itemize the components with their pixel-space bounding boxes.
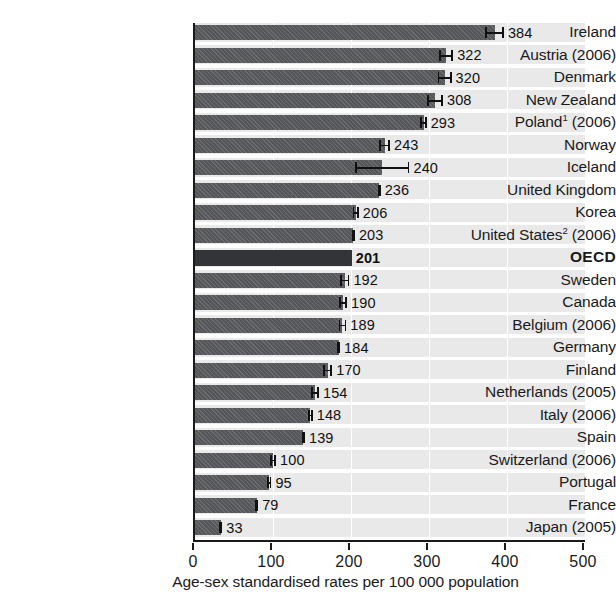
error-bar-cap-high	[330, 365, 332, 376]
bar	[195, 408, 310, 423]
error-bar-cap-low	[420, 117, 422, 128]
category-label-finland: Finland	[430, 362, 616, 378]
x-tick-label-100: 100	[257, 553, 284, 571]
category-label-korea: Korea	[430, 204, 616, 220]
bar	[195, 205, 356, 220]
error-bar-cap-low	[353, 207, 355, 218]
error-bar-cap-high	[348, 275, 350, 286]
value-label: 243	[394, 138, 419, 153]
x-tick-label-400: 400	[491, 553, 518, 571]
value-label: 293	[431, 116, 456, 131]
error-bar-cap-low	[267, 477, 269, 488]
x-axis-title-text: Age-sex standardised rates per 100 000 p…	[97, 573, 519, 590]
error-bar-line	[355, 167, 410, 169]
error-bar	[267, 475, 272, 490]
error-bar	[340, 273, 349, 288]
value-label: 192	[353, 273, 378, 288]
value-label: 236	[385, 183, 410, 198]
category-label-norway: Norway	[430, 137, 616, 153]
value-label: 95	[275, 476, 291, 491]
error-bar	[339, 318, 347, 333]
x-tick-200	[348, 543, 350, 550]
error-bar-cap-low	[379, 140, 381, 151]
error-bar-cap-low	[323, 365, 325, 376]
error-bar-cap-low	[339, 297, 341, 308]
bar	[195, 340, 339, 355]
bar-chart: IrelandAustria (2006)DenmarkNew ZealandP…	[0, 0, 616, 610]
error-bar-cap-high	[408, 162, 410, 173]
bar	[195, 295, 343, 310]
value-label: 189	[350, 318, 375, 333]
bar	[195, 475, 269, 490]
bar	[195, 498, 257, 513]
error-bar	[219, 520, 222, 535]
error-bar-cap-low	[340, 275, 342, 286]
error-bar	[323, 363, 332, 378]
error-bar	[302, 430, 305, 445]
error-bar-cap-high	[425, 117, 427, 128]
error-bar-cap-high	[357, 207, 359, 218]
x-tick-0	[192, 543, 194, 550]
category-label-germany: Germany	[430, 339, 616, 355]
value-label: 308	[447, 93, 472, 108]
error-bar	[311, 385, 319, 400]
bar	[195, 453, 273, 468]
error-bar	[353, 205, 359, 220]
error-bar-cap-low	[311, 387, 313, 398]
row-separator	[195, 537, 585, 541]
error-bar-cap-high	[388, 140, 390, 151]
value-label: 79	[262, 498, 278, 513]
error-bar-cap-high	[345, 297, 347, 308]
error-bar-cap-high	[303, 432, 305, 443]
category-label-united-kingdom: United Kingdom	[430, 182, 616, 198]
bar	[195, 115, 424, 130]
error-bar-cap-high	[379, 185, 381, 196]
category-label-belgium-2006: Belgium (2006)	[430, 317, 616, 333]
category-label-poland-2006: Poland1 (2006)	[430, 114, 616, 130]
bar	[195, 48, 446, 63]
bar	[195, 385, 315, 400]
x-axis-title: Age-sex standardised rates per 100 000 p…	[0, 573, 616, 591]
bar	[195, 70, 445, 85]
category-label-portugal: Portugal	[430, 474, 616, 490]
error-bar-cap-high	[274, 455, 276, 466]
error-bar-cap-high	[256, 500, 258, 511]
category-label-united-states-2006: United States2 (2006)	[430, 227, 616, 243]
value-label: 206	[363, 206, 388, 221]
error-bar-cap-low	[308, 410, 310, 421]
error-bar	[308, 408, 313, 423]
bar	[195, 183, 379, 198]
value-label: 320	[456, 71, 481, 86]
category-label-oecd: OECD	[430, 249, 616, 265]
error-bar-cap-high	[338, 342, 340, 353]
x-tick-label-0: 0	[188, 553, 197, 571]
bar	[195, 318, 342, 333]
value-label: 139	[309, 431, 334, 446]
category-label-france: France	[430, 497, 616, 513]
error-bar	[337, 340, 340, 355]
bar	[195, 363, 328, 378]
error-bar	[352, 228, 355, 243]
value-label: 148	[317, 408, 342, 423]
bar	[195, 520, 221, 535]
value-label: 203	[359, 228, 384, 243]
x-tick-300	[426, 543, 428, 550]
category-label-canada: Canada	[430, 294, 616, 310]
error-bar	[420, 115, 426, 130]
bar	[195, 273, 345, 288]
value-label: 384	[508, 26, 533, 41]
error-bar-cap-low	[270, 455, 272, 466]
value-label: 33	[226, 521, 242, 536]
category-label-iceland: Iceland	[430, 159, 616, 175]
error-bar-cap-low	[427, 95, 429, 106]
x-tick-label-500: 500	[569, 553, 596, 571]
error-bar-cap-high	[345, 320, 347, 331]
error-bar-cap-low	[339, 320, 341, 331]
value-label: 322	[457, 48, 482, 63]
error-bar	[339, 295, 347, 310]
category-label-italy-2006: Italy (2006)	[430, 407, 616, 423]
error-bar-cap-high	[353, 230, 355, 241]
bar	[195, 228, 353, 243]
error-bar-cap-high	[317, 387, 319, 398]
category-label-sweden: Sweden	[430, 272, 616, 288]
